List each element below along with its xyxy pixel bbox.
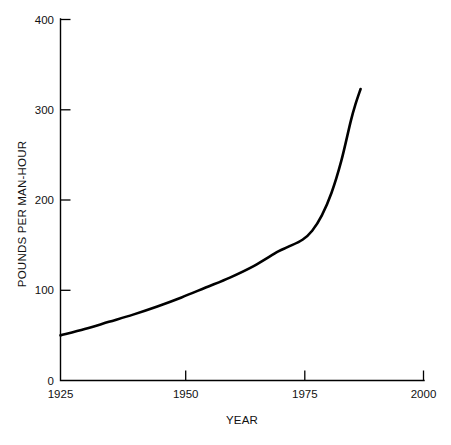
y-tick-label-400: 400 <box>35 14 54 26</box>
caption-ghost <box>14 437 244 443</box>
y-axis-title: POUNDS PER MAN-HOUR <box>16 141 28 287</box>
chart-figure: 400 300 200 100 0 1925 1950 1975 2000 PO… <box>0 0 451 445</box>
x-tick-label-1950: 1950 <box>173 388 199 400</box>
x-tick-label-2000: 2000 <box>411 388 437 400</box>
y-tick-label-100: 100 <box>35 284 54 296</box>
x-axis-title: YEAR <box>226 414 258 426</box>
y-tick-label-0: 0 <box>48 375 54 387</box>
y-tick-label-200: 200 <box>35 194 54 206</box>
y-tick-label-300: 300 <box>35 104 54 116</box>
chart-background <box>0 0 451 445</box>
x-tick-label-1975: 1975 <box>292 388 318 400</box>
x-tick-label-1925: 1925 <box>48 388 74 400</box>
